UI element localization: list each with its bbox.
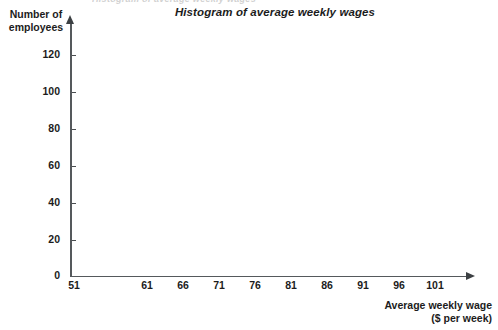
y-tick-label: 60 — [20, 159, 60, 171]
x-tick-label: 51 — [59, 279, 89, 291]
y-tick-mark — [72, 129, 76, 131]
y-tick-mark — [72, 240, 76, 242]
y-axis-label-line1: Number of — [10, 8, 63, 20]
x-tick-label: 66 — [168, 279, 198, 291]
y-tick-label: 80 — [20, 122, 60, 134]
y-tick-mark — [72, 166, 76, 168]
x-tick-label: 91 — [348, 279, 378, 291]
y-tick-label: 40 — [20, 196, 60, 208]
chart-title: Histogram of average weekly wages — [150, 6, 400, 18]
y-axis-label: Number of employees — [6, 8, 66, 33]
x-axis-line — [70, 276, 467, 278]
histogram-worksheet-page: Histogram of average weekly wages Histog… — [0, 0, 498, 330]
x-axis-label: Average weekly wage ($ per week) — [384, 299, 492, 325]
y-tick-label: 20 — [20, 233, 60, 245]
y-tick-label: 100 — [20, 85, 60, 97]
x-axis-arrow-icon — [466, 272, 475, 280]
x-tick-label: 61 — [132, 279, 162, 291]
x-axis-label-line2: ($ per week) — [384, 312, 492, 325]
x-tick-label: 81 — [276, 279, 306, 291]
x-axis-label-line1: Average weekly wage — [384, 299, 492, 311]
y-axis-arrow-icon — [66, 15, 74, 24]
y-axis-label-line2: employees — [6, 21, 66, 34]
scan-artifact-label: Histogram of average weekly wages — [92, 0, 256, 4]
y-tick-label: 120 — [20, 48, 60, 60]
y-tick-mark — [72, 203, 76, 205]
x-tick-label: 86 — [312, 279, 342, 291]
x-tick-label: 101 — [420, 279, 450, 291]
x-tick-label: 71 — [204, 279, 234, 291]
y-tick-mark — [72, 55, 76, 57]
y-tick-mark — [72, 92, 76, 94]
plot-area[interactable] — [71, 22, 467, 276]
x-tick-label: 76 — [240, 279, 270, 291]
x-tick-label: 96 — [384, 279, 414, 291]
y-tick-label: 0 — [20, 269, 60, 281]
